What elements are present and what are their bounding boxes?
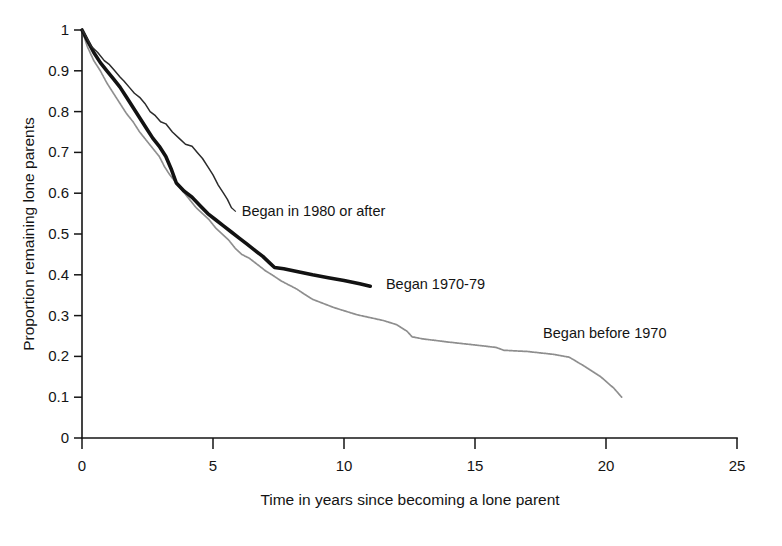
x-tick-label: 15	[467, 457, 484, 474]
y-tick-label: 0.9	[48, 62, 69, 79]
survival-chart-figure: 00.10.20.30.40.50.60.70.80.91 0510152025…	[0, 0, 782, 546]
y-tick-label: 0.3	[48, 307, 69, 324]
y-tick-label: 0.7	[48, 143, 69, 160]
x-tick-label: 20	[598, 457, 615, 474]
chart-canvas: 00.10.20.30.40.50.60.70.80.91 0510152025…	[0, 0, 782, 546]
x-tick-label: 5	[209, 457, 217, 474]
y-axis-title: Proportion remaining lone parents	[20, 117, 37, 351]
series-label-before-1970: Began before 1970	[543, 325, 666, 341]
y-tick-label: 0.2	[48, 347, 69, 364]
y-tick-label: 0	[61, 429, 69, 446]
x-tick-label: 25	[729, 457, 746, 474]
series-label-1970-79: Began 1970-79	[386, 276, 485, 292]
y-tick-label: 0.1	[48, 388, 69, 405]
series-label-1980-or-after: Began in 1980 or after	[242, 203, 386, 219]
x-axis-title: Time in years since becoming a lone pare…	[260, 491, 560, 508]
y-tick-label: 0.6	[48, 184, 69, 201]
y-tick-label: 1	[61, 21, 69, 38]
y-tick-label: 0.5	[48, 225, 69, 242]
y-tick-label: 0.4	[48, 266, 69, 283]
x-tick-label: 0	[78, 457, 86, 474]
x-tick-label: 10	[336, 457, 353, 474]
y-tick-label: 0.8	[48, 103, 69, 120]
